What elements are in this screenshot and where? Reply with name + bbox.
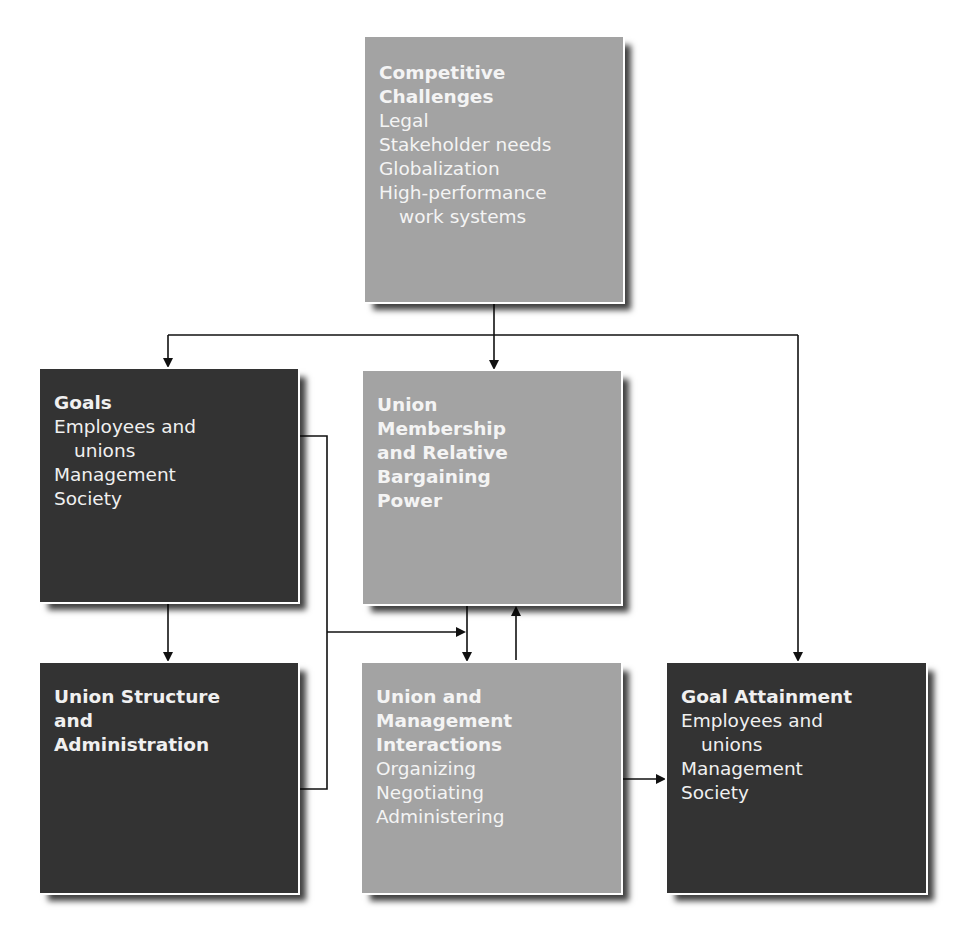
attainment-management: Management <box>681 757 912 781</box>
attainment-employees-and: Employees and <box>681 709 912 733</box>
competitive-challenges-box: Competitive Challenges Legal Stakeholder… <box>365 37 623 302</box>
union-structure-title-2: and <box>54 709 284 733</box>
union-management-interactions-box: Union and Management Interactions Organi… <box>362 663 621 893</box>
attainment-society: Society <box>681 781 912 805</box>
union-membership-title-5: Power <box>377 489 607 513</box>
competitive-challenges-title-2: Challenges <box>379 85 609 109</box>
goals-unions: unions <box>54 439 284 463</box>
competitive-challenges-title-1: Competitive <box>379 61 609 85</box>
challenge-stakeholder-needs: Stakeholder needs <box>379 133 609 157</box>
challenge-legal: Legal <box>379 109 609 133</box>
challenge-work-systems: work systems <box>379 205 609 229</box>
interactions-negotiating: Negotiating <box>376 781 607 805</box>
union-structure-title-1: Union Structure <box>54 685 284 709</box>
union-membership-title-4: Bargaining <box>377 465 607 489</box>
goals-box: Goals Employees and unions Management So… <box>40 369 298 602</box>
challenge-high-performance: High-performance <box>379 181 609 205</box>
union-structure-box: Union Structure and Administration <box>40 663 298 893</box>
goals-title: Goals <box>54 391 284 415</box>
union-structure-title-3: Administration <box>54 733 284 757</box>
challenge-globalization: Globalization <box>379 157 609 181</box>
union-membership-title-1: Union <box>377 393 607 417</box>
interactions-title-2: Management <box>376 709 607 733</box>
goals-management: Management <box>54 463 284 487</box>
attainment-unions: unions <box>681 733 912 757</box>
union-membership-box: Union Membership and Relative Bargaining… <box>363 371 621 604</box>
union-membership-title-3: and Relative <box>377 441 607 465</box>
interactions-title-3: Interactions <box>376 733 607 757</box>
goal-attainment-title: Goal Attainment <box>681 685 912 709</box>
goal-attainment-box: Goal Attainment Employees and unions Man… <box>667 663 926 893</box>
union-membership-title-2: Membership <box>377 417 607 441</box>
interactions-organizing: Organizing <box>376 757 607 781</box>
interactions-administering: Administering <box>376 805 607 829</box>
interactions-title-1: Union and <box>376 685 607 709</box>
goals-employees-and: Employees and <box>54 415 284 439</box>
goals-society: Society <box>54 487 284 511</box>
